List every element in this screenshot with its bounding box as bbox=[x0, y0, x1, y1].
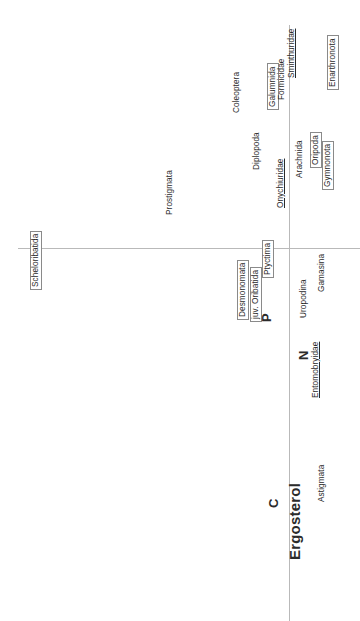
taxon-label-oripoda: Oripoda bbox=[310, 132, 322, 168]
variable-label-ergosterol: Ergosterol bbox=[287, 483, 302, 560]
taxon-label-onychiuridae: Onychiuridae bbox=[277, 159, 285, 208]
taxon-label-scheloribatida: Scheloribatida bbox=[30, 231, 42, 290]
taxon-label-astigmata: Astigmata bbox=[318, 465, 326, 502]
taxon-label-ptyctima: Ptyctima bbox=[262, 240, 274, 278]
taxon-label-arachnida: Arachnida bbox=[296, 140, 304, 178]
taxon-label-formicidae: Formicidae bbox=[278, 59, 286, 101]
taxon-label-uropodina: Uropodina bbox=[300, 279, 308, 318]
variable-label-n: N bbox=[297, 351, 310, 361]
taxon-label-enarthronota: Enarthronota bbox=[327, 35, 339, 90]
variable-label-p: P bbox=[260, 313, 273, 322]
taxon-label-diplopoda: Diplopoda bbox=[253, 132, 261, 170]
taxon-label-prostigmata: Prostigmata bbox=[166, 170, 174, 215]
taxon-label-sminthuridae: Sminthuridae bbox=[288, 29, 296, 78]
variable-label-c: C bbox=[267, 499, 280, 509]
taxon-label-desmonomata: Desmonomata bbox=[237, 260, 249, 320]
taxon-label-entomobryidae: Entomobryidae bbox=[312, 342, 320, 398]
ordination-plot: ScheloribatidaProstigmataColeopteraDiplo… bbox=[0, 0, 360, 621]
taxon-label-coleoptera: Coleoptera bbox=[233, 72, 241, 113]
taxon-label-gymnonota: Gymnonota bbox=[322, 141, 334, 190]
taxon-label-gamasina: Gamasina bbox=[318, 254, 326, 292]
horizontal-axis bbox=[18, 248, 360, 249]
